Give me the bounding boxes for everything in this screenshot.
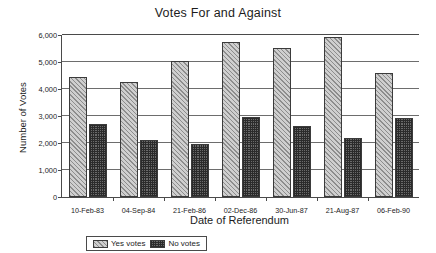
legend-label: Yes votes (111, 239, 145, 248)
x-tick-mark (368, 197, 369, 201)
bar-group (375, 35, 413, 197)
bar-group (273, 35, 311, 197)
y-tick-label: 0 (53, 193, 57, 202)
bar-group (171, 35, 209, 197)
x-tick-mark (317, 197, 318, 201)
bar-yes-votes (69, 77, 87, 197)
bar-group (69, 35, 107, 197)
bar-yes-votes (120, 82, 138, 197)
bar-no-votes (140, 140, 158, 197)
y-tick-mark (58, 197, 62, 198)
bar-yes-votes (375, 73, 393, 197)
bar-no-votes (89, 124, 107, 197)
chart-legend: Yes votesNo votes (86, 236, 207, 251)
votes-bar-chart: Votes For and Against Number of Votes 01… (0, 0, 436, 253)
x-tick-mark (266, 197, 267, 201)
y-tick-label: 3,000 (39, 112, 58, 121)
bar-group (120, 35, 158, 197)
bar-group (324, 35, 362, 197)
legend-label: No votes (168, 239, 200, 248)
legend-item-no-votes: No votes (150, 239, 200, 248)
plot-area: 01,0002,0003,0004,0005,0006,000 10-Feb-8… (61, 35, 419, 198)
x-tick-mark (164, 197, 165, 201)
bar-no-votes (191, 144, 209, 197)
bar-yes-votes (273, 48, 291, 197)
bar-no-votes (344, 138, 362, 197)
y-tick-label: 4,000 (39, 85, 58, 94)
bar-no-votes (242, 117, 260, 197)
bar-no-votes (293, 126, 311, 197)
legend-item-yes-votes: Yes votes (93, 239, 145, 248)
chart-title: Votes For and Against (0, 6, 436, 20)
bar-yes-votes (171, 61, 189, 197)
y-tick-label: 1,000 (39, 166, 58, 175)
x-tick-mark (215, 197, 216, 201)
bar-yes-votes (324, 37, 342, 197)
bar-group (222, 35, 260, 197)
y-axis-title: Number of Votes (17, 63, 28, 173)
y-tick-label: 2,000 (39, 139, 58, 148)
bars-layer (62, 35, 419, 197)
bar-yes-votes (222, 42, 240, 197)
legend-swatch-no-votes (150, 240, 165, 248)
x-axis-title: Date of Referendum (61, 214, 418, 226)
x-tick-mark (113, 197, 114, 201)
y-tick-label: 5,000 (39, 58, 58, 67)
y-tick-label: 6,000 (39, 31, 58, 40)
legend-swatch-yes-votes (93, 240, 108, 248)
bar-no-votes (395, 118, 413, 197)
